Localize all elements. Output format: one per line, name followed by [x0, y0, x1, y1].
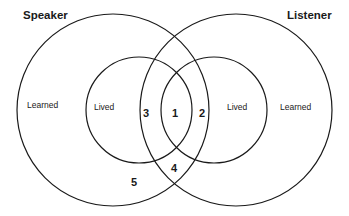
region-number-2: 2 — [199, 108, 205, 119]
speaker-title: Speaker — [23, 10, 68, 22]
speaker-lived-label: Lived — [94, 103, 114, 112]
speaker-learned-label: Learned — [27, 101, 58, 110]
region-number-1: 1 — [172, 108, 178, 119]
region-number-4: 4 — [171, 163, 177, 174]
region-number-5: 5 — [131, 177, 137, 188]
listener-lived-label: Lived — [227, 103, 247, 112]
listener-title: Listener — [287, 10, 332, 22]
listener-learned-label: Learned — [280, 103, 311, 112]
region-number-3: 3 — [143, 108, 149, 119]
